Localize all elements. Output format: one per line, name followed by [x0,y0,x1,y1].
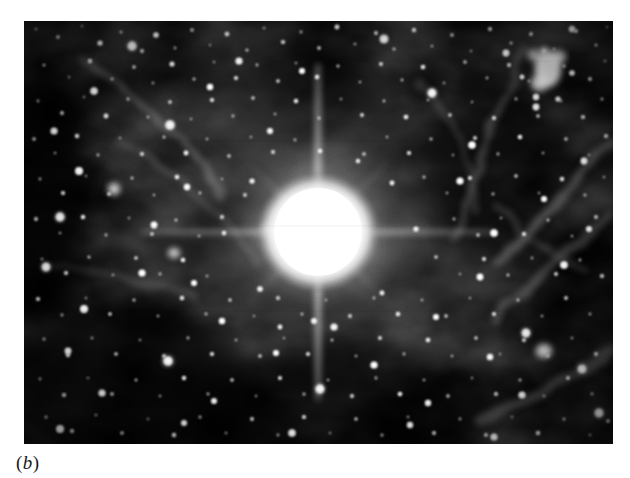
caption-open-paren: ( [16,452,23,473]
caption-label: b [23,452,33,473]
astronomical-photograph-plate [24,21,613,444]
caption-close-paren: ) [33,452,40,473]
figure-container: (b) [0,0,630,478]
figure-caption: (b) [16,452,40,474]
star-field-image [24,21,613,444]
